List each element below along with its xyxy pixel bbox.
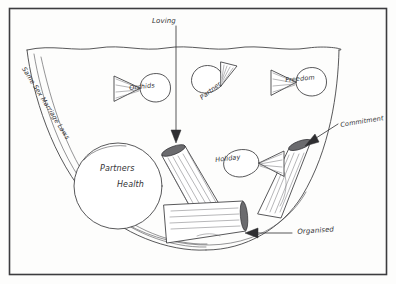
sketch-drawing	[0, 0, 396, 284]
sketch-canvas: Loving Same Sex Marriage Laws Orchids Pa…	[0, 0, 396, 284]
label-partners-health-line2: Health	[117, 180, 144, 189]
arrow-loving	[171, 26, 181, 143]
log-right	[258, 137, 313, 218]
label-partners-health-line1: Partners	[100, 164, 134, 173]
label-loving: Loving	[152, 17, 176, 25]
log-bottom	[164, 201, 249, 243]
arrow-commitment	[305, 124, 338, 146]
